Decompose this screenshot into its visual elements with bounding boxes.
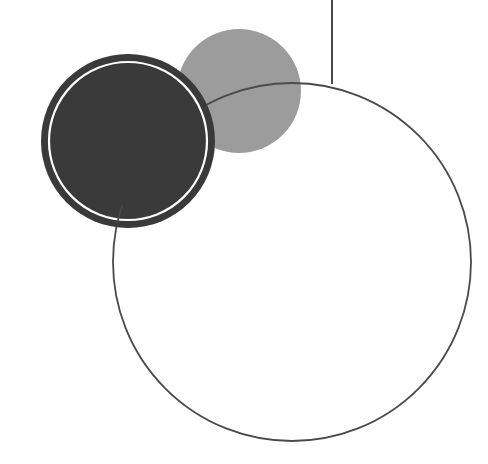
- dark-filled-circle: [41, 54, 215, 228]
- abstract-circles-graphic: [0, 0, 488, 464]
